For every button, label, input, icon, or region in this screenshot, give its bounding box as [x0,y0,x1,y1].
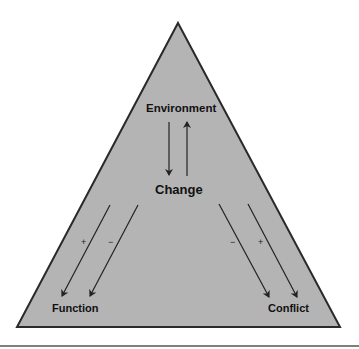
sign-right-outer: + [258,237,263,247]
diagram-canvas: Environment Change Function Conflict + −… [0,0,359,349]
node-change: Change [155,182,203,197]
node-environment: Environment [146,102,216,114]
node-conflict: Conflict [268,302,309,314]
sign-left-inner: − [108,237,113,247]
sign-right-inner: − [230,237,235,247]
triangle-diagram [0,0,359,349]
triangle-shape [17,23,340,327]
node-function: Function [52,302,98,314]
sign-left-outer: + [81,237,86,247]
